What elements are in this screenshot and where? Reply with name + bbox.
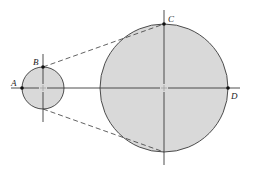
two-circles-diagram: A B C D (0, 0, 253, 172)
label-c: C (168, 14, 175, 24)
point-c (162, 22, 166, 26)
point-a (20, 86, 24, 90)
point-b (41, 65, 45, 69)
label-a: A (10, 78, 17, 88)
label-b: B (33, 57, 39, 67)
label-d: D (230, 91, 238, 101)
point-d (226, 86, 230, 90)
